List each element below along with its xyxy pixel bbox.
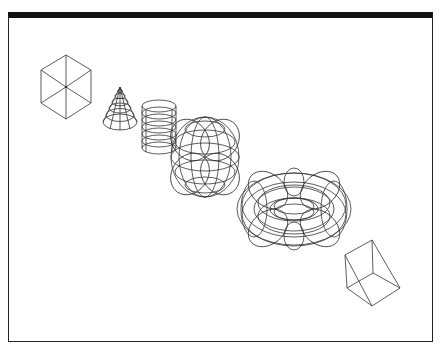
box-wireframe[interactable] [41,55,91,119]
wireframe-scene[interactable] [0,0,442,353]
wedge-wireframe[interactable] [345,240,400,306]
cylinder-wireframe[interactable] [142,100,176,154]
cone-wireframe[interactable] [103,87,137,130]
torus-wireframe[interactable] [237,164,351,255]
